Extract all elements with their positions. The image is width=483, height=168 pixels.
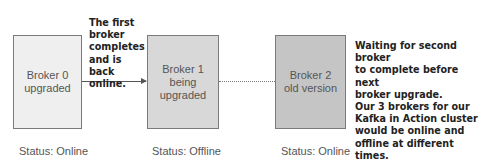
broker-2-label: Broker 2 old version [284,69,337,95]
broker-1-box: Broker 1 being upgraded [147,35,219,129]
rolling-upgrade-diagram: Broker 0 upgraded Broker 1 being upgrade… [0,0,483,168]
first-broker-annotation: The first broker completes and is back o… [89,17,149,90]
broker-2-status: Status: Online [281,145,350,157]
broker-1-label: Broker 1 being upgraded [160,63,207,102]
broker-1-status: Status: Offline [152,145,221,157]
broker-0-box: Broker 0 upgraded [13,35,82,129]
broker-2-box: Broker 2 old version [275,35,346,129]
waiting-annotation: Waiting for second broker to complete be… [355,40,483,162]
broker-0-label: Broker 0 upgraded [24,69,71,95]
broker-0-status: Status: Online [19,145,88,157]
dotted-connector-broker1-to-broker2 [219,81,275,82]
